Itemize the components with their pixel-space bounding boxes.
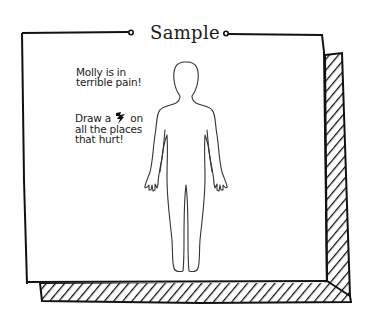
frame-knob-right	[224, 31, 228, 35]
shadow-bottom-band	[40, 281, 351, 303]
pain-drawing-card	[0, 0, 369, 321]
frame-bottom	[27, 281, 327, 282]
instruction-draw-prompt: Draw a on all the places that hurt!	[75, 112, 155, 144]
shadow-right-band	[325, 53, 350, 296]
card-title: Sample	[150, 22, 220, 43]
frame-top-left	[22, 32, 131, 33]
instruction-pain-statement: Molly is in terrible pain!	[76, 67, 156, 87]
frame-knob-left	[129, 30, 133, 34]
